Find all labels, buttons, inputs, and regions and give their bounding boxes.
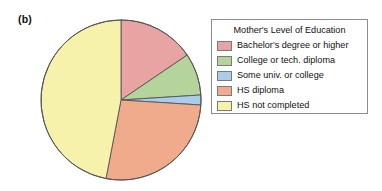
legend-item-college-tech: College or tech. diploma [217,53,362,68]
pie-slice-group [41,20,201,180]
legend-item-hs-not-completed: HS not completed [217,98,362,113]
legend-swatch-hs-not-completed [217,101,232,111]
legend-item-hs-diploma: HS diploma [217,83,362,98]
legend-label-hs-not-completed: HS not completed [237,100,309,111]
legend-label-college-tech: College or tech. diploma [237,55,335,66]
legend-swatch-college-tech [217,56,232,66]
pie-slice [41,20,121,179]
pie-slice [106,100,201,180]
legend-label-some-univ: Some univ. or college [237,70,324,81]
legend-swatch-some-univ [217,71,232,81]
legend: Mother's Level of Education Bachelor's d… [211,19,368,114]
legend-item-bachelors: Bachelor's degree or higher [217,38,362,53]
figure-panel-b: (b) Mother's Level of Education Bachelor… [0,0,382,191]
legend-item-some-univ: Some univ. or college [217,68,362,83]
pie-chart [34,14,208,188]
legend-title: Mother's Level of Education [217,24,362,36]
pie-chart-svg [34,14,208,188]
legend-swatch-hs-diploma [217,86,232,96]
legend-swatch-bachelors [217,41,232,51]
panel-label: (b) [18,13,32,25]
legend-label-hs-diploma: HS diploma [237,85,284,96]
legend-label-bachelors: Bachelor's degree or higher [237,40,348,51]
